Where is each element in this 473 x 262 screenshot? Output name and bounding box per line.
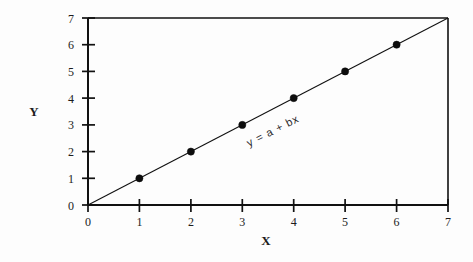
y-tick-label-3: 3	[68, 118, 74, 132]
y-tick-label-1: 1	[68, 172, 74, 186]
x-tick-label-1: 1	[136, 215, 142, 229]
x-tick-label-4: 4	[291, 215, 297, 229]
data-point	[393, 41, 400, 48]
data-point	[342, 68, 349, 75]
scatter-plot: 0 1 2 3 4 5 6 7 0 1 2 3 4 5 6 7	[0, 0, 473, 262]
y-tick-label-0: 0	[68, 199, 74, 213]
x-tick-label-7: 7	[445, 215, 451, 229]
y-tick-label-2: 2	[68, 145, 74, 159]
data-point	[239, 121, 246, 128]
y-tick-label-4: 4	[68, 92, 74, 106]
data-point	[187, 148, 194, 155]
figure-canvas: 0 1 2 3 4 5 6 7 0 1 2 3 4 5 6 7	[0, 0, 473, 262]
x-tick-label-6: 6	[394, 215, 400, 229]
y-axis-title: Y	[29, 104, 39, 119]
x-tick-labels: 0 1 2 3 4 5 6 7	[85, 215, 451, 229]
y-tick-labels: 0 1 2 3 4 5 6 7	[68, 12, 74, 213]
data-point	[136, 175, 143, 182]
y-tick-label-5: 5	[68, 65, 74, 79]
x-tick-label-2: 2	[188, 215, 194, 229]
equation-annotation: y = a + bx	[244, 112, 301, 149]
y-tick-label-7: 7	[68, 12, 74, 26]
x-tick-label-3: 3	[239, 215, 245, 229]
data-point	[290, 95, 297, 102]
x-axis-title: X	[261, 233, 271, 248]
x-tick-label-5: 5	[342, 215, 348, 229]
x-tick-label-0: 0	[85, 215, 91, 229]
y-tick-label-6: 6	[68, 38, 74, 52]
